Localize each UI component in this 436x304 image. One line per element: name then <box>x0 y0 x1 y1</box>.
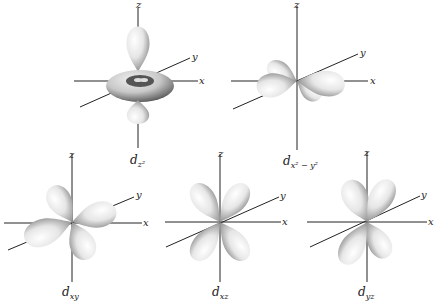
x-axis-label: x <box>428 216 434 227</box>
x-axis-label: x <box>370 75 376 86</box>
z-axis-label: z <box>363 147 370 158</box>
orbital-dx2-y2: z x y <box>231 0 376 150</box>
caption-dyz: dyz <box>358 285 374 301</box>
z-axis-label: z <box>135 0 142 10</box>
y-axis-label: y <box>359 47 366 58</box>
x-axis-label: x <box>199 75 205 86</box>
orbital-dxz: z x y <box>165 148 288 282</box>
x-axis-label: x <box>282 216 288 227</box>
z-axis-label: z <box>293 0 300 10</box>
y-axis-label: y <box>420 189 427 200</box>
caption-dx2-y2: dx² − y² <box>283 154 318 170</box>
y-axis-label: y <box>279 190 286 201</box>
caption-dxy: dxy <box>62 285 79 301</box>
orbital-dxy: z x y <box>4 149 149 282</box>
caption-dxz: dxz <box>212 285 228 301</box>
y-axis-label: y <box>191 51 198 62</box>
x-axis-label: x <box>143 217 149 228</box>
d-orbitals-diagram: z x y z x y z x y z <box>0 0 436 304</box>
y-axis-label: y <box>135 189 142 200</box>
caption-dz2: dz² <box>130 153 145 169</box>
orbital-dyz: z x y <box>307 147 434 282</box>
orbital-dz2: z x y <box>74 0 205 148</box>
z-axis-label: z <box>217 148 224 159</box>
z-axis-label: z <box>68 149 75 160</box>
